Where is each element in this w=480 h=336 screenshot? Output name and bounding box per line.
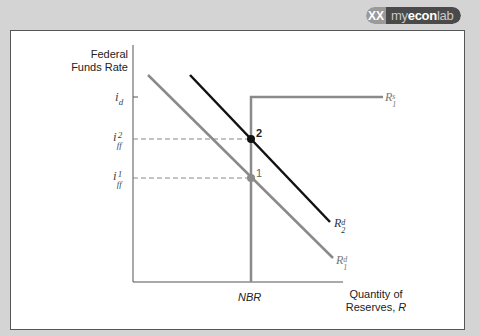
rs-main: R — [385, 90, 392, 104]
iff1-label: i1ff — [113, 168, 129, 184]
iff1-sup: 1 — [118, 169, 123, 179]
equilibrium-point-2 — [247, 135, 255, 143]
r1d-main: R — [336, 253, 343, 267]
id-label: id — [115, 89, 123, 107]
point-2-label: 2 — [256, 127, 262, 139]
r2d-main: R — [334, 216, 341, 230]
point-1-label: 1 — [256, 167, 262, 179]
equilibrium-point-1 — [247, 174, 255, 182]
iff1-sub: ff — [117, 179, 122, 189]
demand-r2d-label: Rd2 — [334, 216, 348, 231]
r2d-sub: 2 — [341, 226, 345, 235]
y-axis-title-line2: Funds Rate — [66, 61, 128, 74]
demand-curve-r1d — [148, 75, 333, 258]
iff2-label: i2ff — [113, 129, 129, 145]
iff2-sub: ff — [117, 140, 122, 150]
x-axis-title-line1: Quantity of — [336, 288, 416, 301]
supply-curve-r1s — [251, 97, 383, 282]
r1d-sub: 1 — [343, 263, 347, 272]
nbr-label: NBR — [238, 291, 261, 303]
y-axis-title-line1: Federal — [66, 48, 128, 61]
x-axis-title: Quantity of Reserves, R — [336, 288, 416, 314]
x-axis-title-text: Reserves, — [346, 301, 399, 313]
y-axis-title: Federal Funds Rate — [66, 48, 128, 74]
demand-r1d-label: Rd1 — [336, 253, 350, 268]
id-sub: d — [119, 97, 124, 107]
x-axis-variable: R — [398, 301, 406, 313]
rs-sub: 1 — [392, 100, 396, 109]
iff2-sup: 2 — [118, 130, 123, 140]
x-axis-title-line2: Reserves, R — [336, 301, 416, 314]
supply-curve-label: Rs1 — [385, 90, 399, 105]
